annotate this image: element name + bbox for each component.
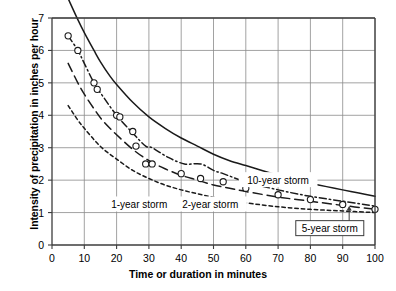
- x-tick-label: 20: [111, 252, 123, 264]
- data-point-marker: [275, 192, 281, 198]
- ann-5year: 5-year storm: [302, 223, 358, 234]
- data-point-marker: [197, 175, 203, 181]
- x-tick-label: 90: [337, 252, 349, 264]
- ann-2year: 2-year storm: [182, 199, 238, 210]
- x-tick-label: 100: [366, 252, 384, 264]
- data-point-marker: [94, 86, 100, 92]
- data-point-marker: [178, 171, 184, 177]
- x-tick-label: 10: [78, 252, 90, 264]
- data-point-marker: [65, 33, 71, 39]
- data-point-marker: [220, 179, 226, 185]
- data-point-marker: [91, 80, 97, 86]
- data-point-marker: [130, 128, 136, 134]
- x-tick-label: 50: [208, 252, 220, 264]
- data-point-marker: [340, 201, 346, 207]
- x-tick-label: 60: [240, 252, 252, 264]
- data-point-marker: [149, 161, 155, 167]
- x-tick-label: 40: [175, 252, 187, 264]
- curve-10-year-storm: [68, 0, 375, 196]
- data-point-marker: [75, 47, 81, 53]
- data-point-marker: [133, 143, 139, 149]
- x-tick-label: 30: [143, 252, 155, 264]
- x-tick-label: 80: [305, 252, 317, 264]
- data-point-marker: [307, 197, 313, 203]
- x-tick-label: 70: [272, 252, 284, 264]
- annotations-group: 10-year storm2-year storm1-year storm5-y…: [103, 172, 364, 235]
- ann-10year: 10-year storm: [247, 175, 309, 186]
- ann-1year: 1-year storm: [111, 199, 167, 210]
- idf-chart-svg: 010203040506070809010001234567 10-year s…: [0, 0, 396, 291]
- data-point-marker: [117, 114, 123, 120]
- data-point-marker: [143, 161, 149, 167]
- x-tick-label: 0: [49, 252, 55, 264]
- chart-root: Intensity of precipitation in inches per…: [0, 0, 396, 291]
- x-axis-title: Time or duration in minutes: [0, 268, 396, 280]
- data-markers-group: [65, 33, 378, 213]
- y-axis-title: Intensity of precipitation in inches per…: [28, 4, 40, 244]
